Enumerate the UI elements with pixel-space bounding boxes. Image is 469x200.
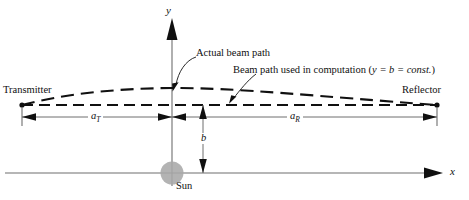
dimension-label-aR-subscript: R [295, 115, 300, 124]
x-axis-label: x [450, 166, 455, 177]
dim-arrow-aT-right [158, 113, 172, 120]
dim-arrow-aT-left [22, 113, 36, 120]
x-axis-arrowhead [424, 168, 443, 179]
computed-beam-path-label-close: ) [431, 64, 435, 75]
computed-beam-path-label-text: Beam path used in computation ( [233, 64, 372, 75]
beam-path-figure: y x Transmitter Reflector Actual beam pa… [0, 0, 469, 200]
dimension-label-aR: aR [287, 111, 303, 124]
dimension-label-b: b [198, 133, 209, 144]
reflector-marker [434, 102, 439, 107]
computed-beam-path-label: Beam path used in computation (y = b = c… [233, 65, 435, 76]
dim-arrow-b-bottom [199, 159, 207, 173]
actual-beam-path-label: Actual beam path [196, 48, 270, 59]
dim-arrow-aR-left [172, 113, 186, 120]
y-axis-arrowhead [167, 18, 178, 40]
diagram-canvas [0, 0, 469, 200]
dimension-label-aT: aT [88, 111, 103, 124]
dim-arrow-b-top [199, 105, 207, 119]
transmitter-marker [19, 102, 24, 107]
computed-beam-path-label-math: y = b = const. [372, 64, 431, 75]
y-axis-label: y [166, 5, 171, 16]
dimension-label-aT-subscript: T [96, 115, 100, 124]
axis-group [5, 18, 443, 186]
dim-arrow-aR-right [423, 113, 437, 120]
reflector-label: Reflector [402, 85, 441, 96]
dimension-line-group [22, 107, 437, 126]
transmitter-label: Transmitter [3, 85, 52, 96]
actual-path-leader [172, 57, 196, 92]
sun-label: Sun [176, 181, 192, 192]
